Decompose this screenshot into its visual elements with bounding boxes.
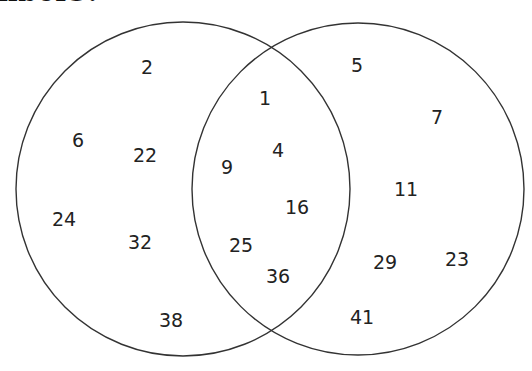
number-left-only: 6 xyxy=(72,129,84,151)
number-right-only: 23 xyxy=(445,248,469,270)
number-left-only: 38 xyxy=(159,309,183,331)
number-intersection: 16 xyxy=(285,196,309,218)
number-intersection: 25 xyxy=(229,234,253,256)
number-right-only: 41 xyxy=(350,306,374,328)
number-left-only: 2 xyxy=(141,56,153,78)
left-set-circle xyxy=(16,22,350,356)
venn-diagram: 26222432381491625365711292341 xyxy=(0,0,532,371)
number-right-only: 29 xyxy=(373,251,397,273)
number-right-only: 5 xyxy=(351,54,363,76)
number-right-only: 11 xyxy=(394,178,418,200)
number-intersection: 4 xyxy=(272,139,284,161)
number-right-only: 7 xyxy=(431,106,443,128)
number-intersection: 9 xyxy=(221,156,233,178)
venn-labels: 26222432381491625365711292341 xyxy=(52,54,469,331)
venn-circles xyxy=(16,22,524,356)
number-intersection: 1 xyxy=(259,87,271,109)
number-intersection: 36 xyxy=(266,265,290,287)
number-left-only: 32 xyxy=(128,231,152,253)
number-left-only: 22 xyxy=(133,144,157,166)
number-left-only: 24 xyxy=(52,208,76,230)
